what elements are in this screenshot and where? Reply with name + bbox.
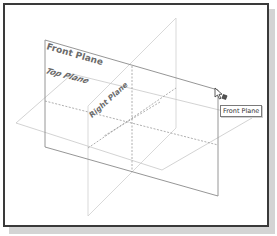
select-plane-cursor-icon [214, 87, 228, 105]
top-plane-label: Top Plane [44, 66, 92, 85]
plane-intersections [45, 66, 218, 172]
plane-scene: Front Plane Top Plane Right Plane [0, 0, 277, 236]
plane-tooltip: Front Plane [220, 105, 262, 117]
front-plane-label: Front Plane [45, 41, 104, 67]
